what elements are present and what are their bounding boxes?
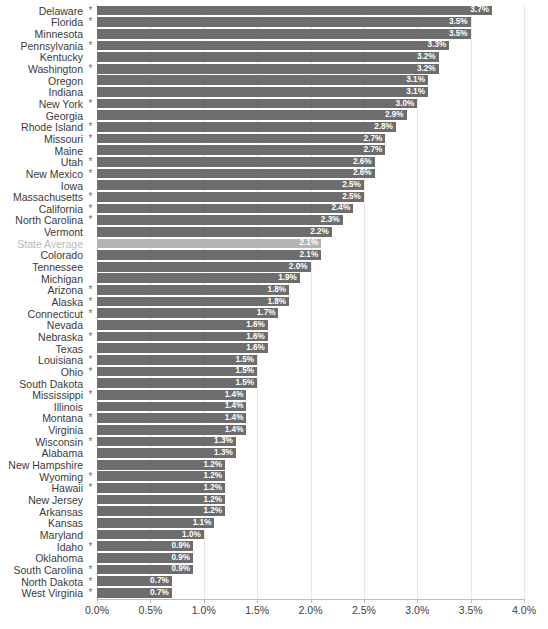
bar: 0.9% xyxy=(97,541,193,551)
bar-value-label: 0.9% xyxy=(171,542,190,550)
bar-value-label: 1.6% xyxy=(246,321,265,329)
bar: 2.5% xyxy=(97,180,364,190)
category-label: Louisiana xyxy=(38,355,83,366)
category-label: Georgia xyxy=(46,110,83,121)
bar-row: New Hampshire1.2% xyxy=(97,459,524,471)
category-label: Idaho xyxy=(57,541,83,552)
asterisk-icon: * xyxy=(86,413,95,423)
x-tick-label: 3.0% xyxy=(405,604,429,616)
bar-value-label: 1.2% xyxy=(203,461,222,469)
bar: 3.5% xyxy=(97,17,471,27)
bar: 2.6% xyxy=(97,157,375,167)
bar-row: *New Mexico2.6% xyxy=(97,168,524,180)
category-label: Colorado xyxy=(40,250,83,261)
bar-row: *Alaska1.8% xyxy=(97,296,524,308)
bar: 1.6% xyxy=(97,343,268,353)
category-label: Nevada xyxy=(47,320,83,331)
category-label: Michigan xyxy=(41,273,83,284)
category-label: Delaware xyxy=(39,6,83,17)
bar-value-label: 1.4% xyxy=(225,402,244,410)
category-label: Mississippi xyxy=(32,390,83,401)
bar-row: New Jersey1.2% xyxy=(97,494,524,506)
category-label: Iowa xyxy=(61,180,83,191)
category-label: Connecticut xyxy=(28,308,83,319)
x-tick-mark xyxy=(97,599,98,603)
bar-chart: *Delaware3.7%*Florida3.5%Minnesota3.5%*P… xyxy=(0,0,548,629)
category-label: Missouri xyxy=(44,134,83,145)
bar-value-label: 3.1% xyxy=(406,88,425,96)
bar: 1.6% xyxy=(97,320,268,330)
category-label: Utah xyxy=(61,157,83,168)
bar-row: *Pennsylvania3.3% xyxy=(97,40,524,52)
x-tick-mark xyxy=(257,599,258,603)
bar: 1.2% xyxy=(97,506,225,516)
bar-row: *South Carolina0.9% xyxy=(97,564,524,576)
bar-row: Maine2.7% xyxy=(97,145,524,157)
category-label: Wisconsin xyxy=(35,437,83,448)
bar: 3.3% xyxy=(97,41,449,51)
category-label: Oklahoma xyxy=(35,553,83,564)
bar: 1.4% xyxy=(97,402,246,412)
bar-value-label: 2.5% xyxy=(342,181,361,189)
bar: 0.9% xyxy=(97,553,193,563)
category-label: Maine xyxy=(54,145,83,156)
category-label: California xyxy=(39,204,83,215)
bar: 2.2% xyxy=(97,227,332,237)
category-label: New Hampshire xyxy=(8,460,83,471)
bar: 2.8% xyxy=(97,122,396,132)
bar-value-label: 0.9% xyxy=(171,565,190,573)
x-tick-label: 1.0% xyxy=(192,604,216,616)
bar: 3.1% xyxy=(97,87,428,97)
bar: 2.7% xyxy=(97,145,385,155)
category-label: New York xyxy=(39,99,83,110)
bar-value-label: 2.2% xyxy=(310,228,329,236)
category-label: Ohio xyxy=(61,367,83,378)
asterisk-icon: * xyxy=(86,64,95,74)
bar: 1.5% xyxy=(97,367,257,377)
asterisk-icon: * xyxy=(86,169,95,179)
asterisk-icon: * xyxy=(86,472,95,482)
x-tick-label: 2.5% xyxy=(352,604,376,616)
category-label: Virginia xyxy=(48,425,83,436)
bar: 3.0% xyxy=(97,99,417,109)
asterisk-icon: * xyxy=(86,542,95,552)
x-tick-mark xyxy=(471,599,472,603)
bar: 1.8% xyxy=(97,285,289,295)
asterisk-icon: * xyxy=(86,588,95,598)
bar-value-label: 1.0% xyxy=(182,530,201,538)
bar: 1.9% xyxy=(97,273,300,283)
asterisk-icon: * xyxy=(86,41,95,51)
bar-row: Illinois1.4% xyxy=(97,401,524,413)
x-tick-label: 2.0% xyxy=(299,604,323,616)
bar-value-label: 1.8% xyxy=(267,286,286,294)
bar-row: *Nebraska1.6% xyxy=(97,331,524,343)
bar-row: *Washington3.2% xyxy=(97,63,524,75)
category-label: Washington xyxy=(28,64,83,75)
bar: 1.2% xyxy=(97,495,225,505)
bar-row: *Hawaii1.2% xyxy=(97,483,524,495)
bar-value-label: 2.6% xyxy=(353,158,372,166)
bar-row: Virginia1.4% xyxy=(97,424,524,436)
bar-value-label: 1.2% xyxy=(203,472,222,480)
bar-row: Oklahoma0.9% xyxy=(97,552,524,564)
bar-row: State Average2.1% xyxy=(97,238,524,250)
asterisk-icon: * xyxy=(86,157,95,167)
category-label: Maryland xyxy=(40,530,83,541)
bar-value-label: 2.1% xyxy=(300,239,319,247)
bar: 1.8% xyxy=(97,297,289,307)
bar: 3.7% xyxy=(97,6,492,16)
bar: 1.2% xyxy=(97,471,225,481)
bar-value-label: 3.7% xyxy=(470,6,489,14)
category-label: Minnesota xyxy=(35,29,83,40)
bar-value-label: 2.5% xyxy=(342,193,361,201)
asterisk-icon: * xyxy=(86,134,95,144)
bar: 2.9% xyxy=(97,110,407,120)
bar: 3.5% xyxy=(97,29,471,39)
bar-value-label: 1.6% xyxy=(246,332,265,340)
bar: 2.6% xyxy=(97,169,375,179)
category-label: Oregon xyxy=(48,75,83,86)
x-tick-mark xyxy=(524,599,525,603)
category-label: State Average xyxy=(17,239,83,250)
bar-row: *North Carolina2.3% xyxy=(97,215,524,227)
category-label: Hawaii xyxy=(51,483,83,494)
